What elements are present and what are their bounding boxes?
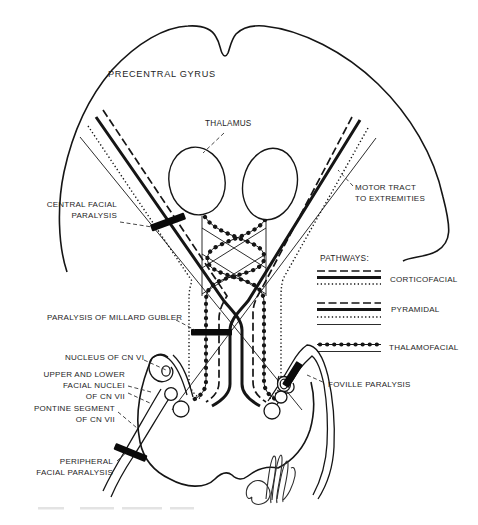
leader-facial-nuclei-1 xyxy=(128,386,151,392)
lesion-bar-millard-gubler xyxy=(191,329,232,336)
legend-sample-thalamofacial xyxy=(317,345,381,352)
label-nucleus-cn6: NUCLEUS OF CN VI xyxy=(65,352,144,363)
facial-nucleus-left-lower xyxy=(173,401,189,417)
facial-pathways-diagram: PRECENTRAL GYRUS THALAMUS MOTOR TRACT TO… xyxy=(0,0,478,525)
diagram-artwork xyxy=(0,0,478,525)
label-foville-paralysis: FOVILLE PARALYSIS xyxy=(328,379,411,390)
legend-label-pyramidal: PYRAMIDAL xyxy=(391,304,439,315)
legend-title: PATHWAYS: xyxy=(320,253,369,264)
thalamus-right xyxy=(236,143,304,225)
facial-nucleus-right-upper xyxy=(275,391,287,403)
label-millard-gubler: PARALYSIS OF MILLARD GUBLER xyxy=(47,312,182,323)
label-thalamus: THALAMUS xyxy=(205,118,252,129)
thalamus-left xyxy=(164,143,231,220)
legend-samples xyxy=(317,271,381,352)
facial-nucleus-right-lower xyxy=(264,403,280,419)
legend-sample-pyramidal xyxy=(317,303,381,325)
signature xyxy=(246,455,295,504)
label-central-facial-paralysis: CENTRAL FACIAL PARALYSIS xyxy=(45,199,117,222)
facial-nucleus-left-upper xyxy=(165,388,178,401)
facial-nerve-right-tube xyxy=(268,345,334,499)
leader-central-facial xyxy=(120,222,152,227)
legend-label-corticofacial: CORTICOFACIAL xyxy=(390,274,458,285)
label-precentral-gyrus: PRECENTRAL GYRUS xyxy=(108,69,216,80)
legend-sample-corticofacial xyxy=(317,271,381,284)
faint-caption-remnant xyxy=(38,507,194,510)
label-motor-tract: MOTOR TRACT TO EXTREMITIES xyxy=(355,183,425,204)
cn6-nucleus-left xyxy=(162,366,170,376)
lesion-bar-central-facial xyxy=(150,212,186,231)
leader-pontine-segment xyxy=(118,412,137,428)
label-pontine-segment: PONTINE SEGMENT OF CN VII xyxy=(32,403,115,425)
label-peripheral-facial-paralysis: PERIPHERAL FACIAL PARALYSIS xyxy=(30,456,113,478)
legend-label-thalamofacial: THALAMOFACIAL xyxy=(389,342,459,353)
label-facial-nuclei-cn7: UPPER AND LOWER FACIAL NUCLEI OF CN VII xyxy=(42,369,125,403)
